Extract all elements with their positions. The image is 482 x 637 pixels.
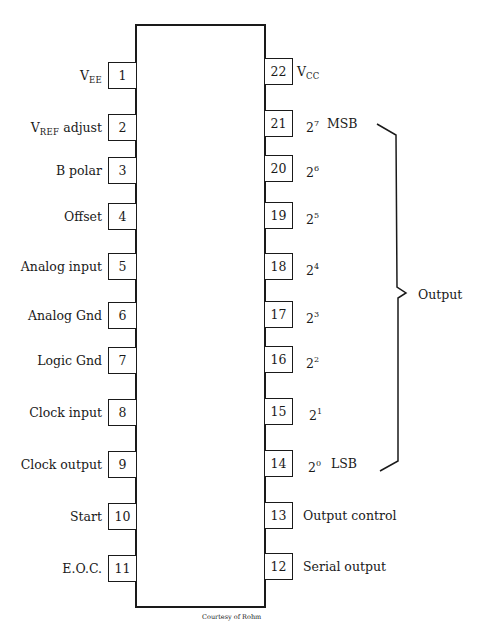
output-brace-icon bbox=[0, 0, 482, 637]
output-group-label: Output bbox=[418, 281, 462, 308]
caption: Courtesy of Rohm bbox=[202, 613, 261, 621]
